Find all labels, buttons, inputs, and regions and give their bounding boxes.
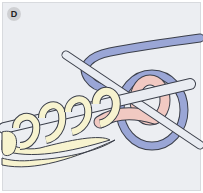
crochet-illustration	[0, 0, 203, 193]
illustration-frame: D	[0, 0, 203, 193]
step-label-badge: D	[7, 7, 21, 21]
